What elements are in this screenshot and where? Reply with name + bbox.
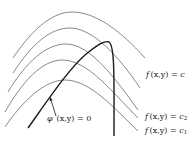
label-f-equals-c: f (x,y) = c — [146, 71, 185, 79]
level-curve-2 — [13, 28, 140, 88]
label-subscript: 2 — [184, 115, 188, 121]
label-subscript: 1 — [184, 129, 188, 135]
label-args: (x,y) = — [150, 112, 180, 121]
level-curve-5 — [5, 80, 138, 131]
label-phi-equals-zero: φ (x,y) = 0 — [47, 115, 91, 123]
label-f: f — [145, 126, 148, 135]
label-phi: φ — [47, 114, 53, 123]
label-args: (x,y) = 0 — [57, 114, 92, 123]
label-args: (x,y) = — [151, 70, 181, 79]
level-curve-1 — [13, 12, 145, 58]
label-f: f — [146, 70, 149, 79]
label-c: c — [180, 70, 184, 79]
label-f-equals-c1: f (x,y) = c1 — [145, 127, 187, 136]
label-f: f — [145, 112, 148, 121]
label-args: (x,y) = — [150, 126, 180, 135]
label-f-equals-c2: f (x,y) = c2 — [145, 113, 187, 122]
